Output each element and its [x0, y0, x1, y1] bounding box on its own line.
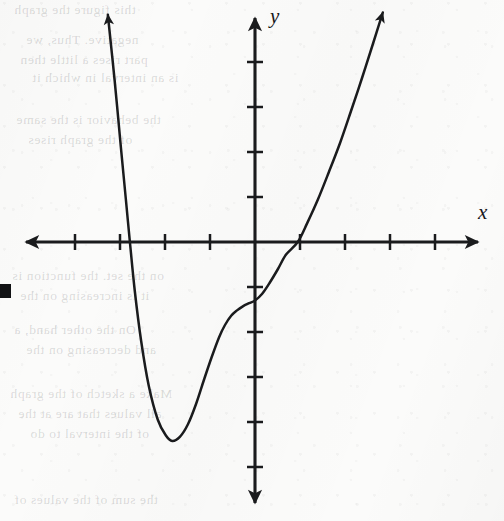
graph-canvas	[0, 0, 504, 521]
polynomial-curve	[108, 13, 383, 441]
x-axis-label: x	[478, 200, 487, 225]
y-axis	[247, 18, 263, 503]
y-axis-label: y	[270, 4, 279, 29]
figure-page: this figure the graphnegative. Thus, wep…	[0, 0, 504, 521]
x-axis	[26, 234, 478, 250]
scan-edge-mark	[0, 284, 11, 298]
